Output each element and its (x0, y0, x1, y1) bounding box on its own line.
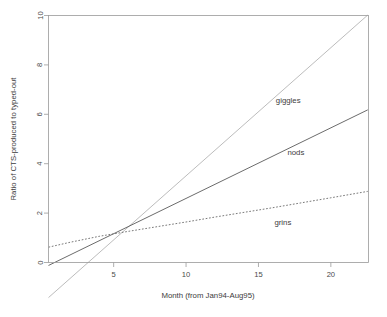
series-layer (49, 15, 368, 298)
axis-ticks: 51015200246810 (36, 11, 336, 279)
series-label-nods: nods (287, 148, 304, 157)
series-label-grins: grins (274, 218, 291, 227)
series-line-nods (49, 110, 368, 266)
plot-frame (49, 16, 369, 263)
chart-container: 51015200246810 gigglesnodsgrins Month (f… (0, 0, 387, 317)
y-tick-label: 8 (36, 63, 45, 67)
y-axis-title: Ratio of CTS-produced to typed-out (9, 77, 18, 201)
series-line-grins (49, 191, 368, 247)
x-tick-label: 20 (327, 270, 335, 279)
x-tick-label: 5 (112, 270, 116, 279)
y-tick-label: 4 (36, 162, 45, 166)
x-tick-label: 10 (182, 270, 190, 279)
x-axis-title: Month (from Jan94-Aug95) (161, 291, 255, 300)
y-tick-label: 6 (36, 112, 45, 116)
y-tick-label: 2 (36, 211, 45, 215)
y-tick-label: 0 (36, 260, 45, 264)
line-chart: 51015200246810 gigglesnodsgrins Month (f… (0, 0, 387, 317)
series-label-giggles: giggles (276, 96, 301, 105)
x-tick-label: 15 (254, 270, 262, 279)
y-tick-label: 10 (36, 11, 45, 19)
series-line-giggles (49, 15, 368, 298)
series-annotations: gigglesnodsgrins (274, 96, 304, 227)
